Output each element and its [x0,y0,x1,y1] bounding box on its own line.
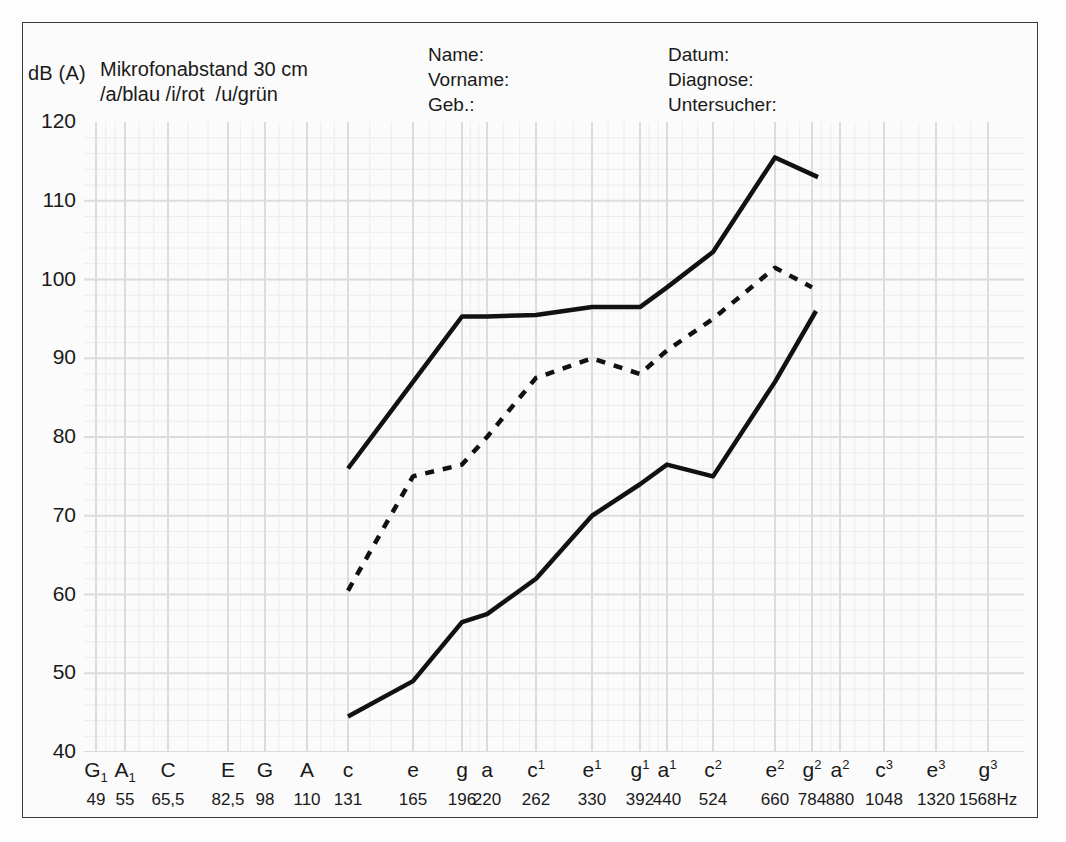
x-frequency-label-13: 440 [653,790,681,810]
x-note-label-12: g1 [631,758,650,782]
voice-range-plot [84,122,1024,752]
x-frequency-label-12: 392 [626,790,654,810]
y-tick-90: 90 [16,345,76,369]
x-frequency-label-11: 330 [578,790,606,810]
y-axis-unit-label: dB (A) [28,62,86,85]
x-note-label-4: G [257,758,273,782]
y-tick-80: 80 [16,424,76,448]
x-frequency-label-4: 98 [256,790,275,810]
x-note-label-15: e2 [766,758,785,782]
y-tick-50: 50 [16,660,76,684]
y-tick-110: 110 [16,188,76,212]
voice-range-profile-page: dB (A) Mikrofonabstand 30 cm /a/blau /i/… [0,0,1066,842]
x-frequency-label-17: 880 [826,790,854,810]
x-note-label-16: g2 [803,758,822,782]
y-tick-70: 70 [16,503,76,527]
x-note-label-18: c3 [875,758,893,782]
x-frequency-label-3: 82,5 [211,790,244,810]
plot-area [84,122,1024,752]
x-frequency-label-18: 1048 [865,790,903,810]
x-frequency-label-16: 784 [798,790,826,810]
x-frequency-label-7: 165 [399,790,427,810]
x-note-label-1: A1 [114,758,135,782]
microphone-note: Mikrofonabstand 30 cm /a/blau /i/rot /u/… [100,57,308,107]
x-note-label-9: a [481,758,493,782]
y-axis-tick-labels: 120110100908070605040 [14,122,76,752]
field-label-vorname: Vorname: [428,67,509,92]
x-frequency-label-1: 55 [116,790,135,810]
x-note-label-7: e [407,758,419,782]
x-frequency-label-14: 524 [699,790,727,810]
field-label-diagnose: Diagnose: [668,67,777,92]
y-tick-100: 100 [16,267,76,291]
field-label-geburtsdatum: Geb.: [428,92,509,117]
x-note-label-6: c [343,758,354,782]
x-note-label-13: a1 [658,758,677,782]
x-note-label-17: a2 [831,758,850,782]
x-frequency-label-5: 110 [293,790,320,810]
microphone-distance-line: Mikrofonabstand 30 cm [100,57,308,82]
x-note-label-11: e1 [583,758,602,782]
x-note-label-3: E [221,758,235,782]
patient-form-left: Name: Vorname: Geb.: [428,42,509,117]
patient-form-right: Datum: Diagnose: Untersucher: [668,42,777,117]
x-frequency-label-0: 49 [87,790,106,810]
x-note-label-14: c2 [704,758,722,782]
x-frequency-label-9: 220 [473,790,501,810]
field-label-name: Name: [428,42,509,67]
x-note-label-5: A [300,758,314,782]
x-note-label-19: e3 [927,758,946,782]
field-label-datum: Datum: [668,42,777,67]
x-frequency-label-6: 131 [334,790,362,810]
x-frequency-label-2: 65,5 [151,790,184,810]
y-tick-60: 60 [16,582,76,606]
x-frequency-label-10: 262 [522,790,550,810]
field-label-untersucher: Untersucher: [668,92,777,117]
y-tick-120: 120 [16,109,76,133]
x-note-label-2: C [160,758,175,782]
x-note-label-8: g [456,758,468,782]
vowel-color-legend-line: /a/blau /i/rot /u/grün [100,82,308,107]
y-tick-40: 40 [16,739,76,763]
x-frequency-label-20: 1568Hz [959,790,1018,810]
x-frequency-label-19: 1320 [917,790,955,810]
x-note-label-10: c1 [527,758,545,782]
x-note-label-0: G1 [84,758,108,782]
x-note-label-20: g3 [979,758,998,782]
x-frequency-label-15: 660 [761,790,789,810]
